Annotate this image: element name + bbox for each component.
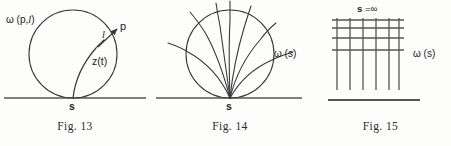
figure-panel-13: ω (p,l) p l z(t) s Fig. 13 — [0, 0, 150, 146]
figure-plate: ω (p,l) p l z(t) s Fig. 13 ω (s) s Fig. … — [0, 0, 451, 146]
label-vector-l: l — [102, 29, 105, 40]
horocycle-circle-13 — [29, 10, 117, 98]
label-point-p: p — [120, 20, 126, 32]
grid-vertical-lines — [337, 18, 399, 90]
label-omega-s-15: ω (s) — [413, 48, 435, 59]
label-omega-p-l: ω (p,l) — [6, 14, 35, 25]
label-basepoint-s-14: s — [226, 100, 232, 112]
figure-panel-14: ω (s) s Fig. 14 — [150, 0, 310, 146]
geodesic-curve — [229, 1, 230, 98]
caption-fig-13: Fig. 13 — [0, 120, 150, 132]
grid-horizontal-lines — [332, 20, 404, 50]
label-basepoint-s-13: s — [69, 100, 75, 112]
label-s-equals-infinity: s =∞ — [357, 3, 377, 14]
caption-fig-14: Fig. 14 — [150, 120, 310, 132]
figure-panel-15: s =∞ ω (s) Fig. 15 — [310, 0, 451, 146]
geodesic-curve — [168, 43, 230, 98]
geodesic-curve — [216, 3, 230, 98]
label-omega-s-14: ω (s) — [274, 48, 296, 59]
caption-fig-15: Fig. 15 — [310, 120, 451, 132]
geodesic-curve — [230, 6, 251, 98]
label-curve-zt: z(t) — [92, 55, 107, 67]
fig-15-drawing — [310, 0, 451, 120]
